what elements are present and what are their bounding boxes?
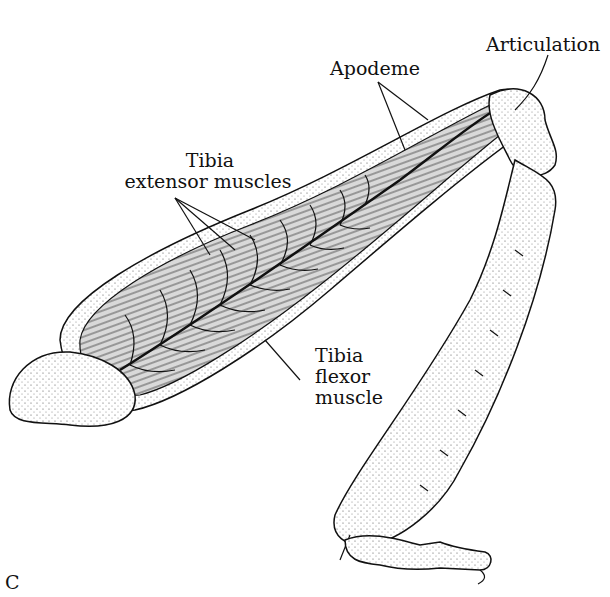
leg-diagram: Articulation Apodeme Tibia extensor musc… [0,0,610,597]
label-tibia-flexor-line2: flexor [315,366,370,387]
label-articulation: Articulation [486,34,600,55]
label-tibia-extensor-line1: Tibia [150,150,270,171]
panel-label: C [5,572,20,593]
label-tibia-flexor-line1: Tibia [315,345,363,366]
leg-illustration [0,0,610,597]
tarsus [345,536,491,584]
label-apodeme: Apodeme [330,58,420,79]
label-tibia-flexor-line3: muscle [315,387,383,408]
label-tibia-extensor-line2: extensor muscles [118,171,298,192]
